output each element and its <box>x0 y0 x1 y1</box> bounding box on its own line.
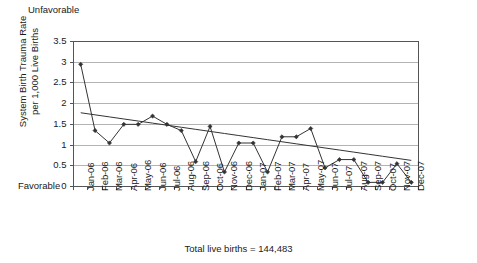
x-tick-label: Mar-07 <box>286 161 297 191</box>
y-tick-label: 0 <box>41 180 67 191</box>
y-tick-label: 1 <box>41 139 67 150</box>
x-tick-label: Dec-06 <box>243 160 254 190</box>
x-tick-label: Sep-07 <box>372 160 383 190</box>
y-tick-label: 0.5 <box>41 159 67 170</box>
x-tick-label: Oct-07 <box>387 163 398 191</box>
x-tick-label: Jul-07 <box>343 165 354 190</box>
x-tick-label: Aug-06 <box>185 160 196 190</box>
x-tick-label: Mar-06 <box>113 161 124 191</box>
x-tick-label: Jul-06 <box>171 165 182 190</box>
x-tick-label: May-07 <box>315 159 326 190</box>
x-tick-label: Jan-07 <box>257 162 268 190</box>
x-tick-label: Dec-07 <box>415 160 426 190</box>
x-tick-label: Oct-06 <box>214 163 225 191</box>
x-tick-label: Aug-07 <box>358 160 369 190</box>
x-tick-label: Nov-07 <box>401 160 412 190</box>
x-tick-label: Jan-06 <box>85 162 96 190</box>
plot-area <box>0 0 477 263</box>
y-tick-label: 2 <box>41 97 67 108</box>
birth-trauma-rate-chart: Unfavorable Favorable System Birth Traum… <box>0 0 477 263</box>
x-tick-label: Apr-06 <box>128 163 139 191</box>
x-tick-label: Sep-06 <box>200 160 211 190</box>
y-tick-label: 2.5 <box>41 76 67 87</box>
y-tick-label: 3 <box>41 56 67 67</box>
x-tick-label: Jun-06 <box>157 162 168 190</box>
x-tick-label: May-06 <box>142 159 153 190</box>
x-tick-label: Jun-07 <box>329 162 340 190</box>
total-live-births-note: Total live births = 144,483 <box>0 243 477 254</box>
y-tick-label: 3.5 <box>41 35 67 46</box>
x-tick-label: Nov-06 <box>228 160 239 190</box>
y-tick-label: 1.5 <box>41 118 67 129</box>
x-tick-label: Apr-07 <box>300 163 311 191</box>
x-tick-label: Feb-07 <box>272 161 283 191</box>
x-tick-label: Feb-06 <box>99 161 110 191</box>
